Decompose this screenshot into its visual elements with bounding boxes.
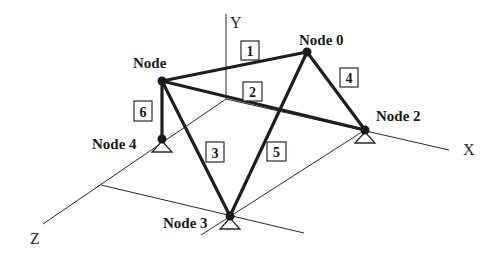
member-5-number: 5 — [273, 145, 280, 160]
truss-diagram: XYZ123456NodeNode 0Node 2Node 3Node 4 — [0, 0, 503, 255]
x-axis-label: X — [463, 141, 475, 158]
node-4-label: Node 4 — [92, 136, 137, 152]
node-top-left-label: Node — [133, 55, 167, 71]
member-4-number: 4 — [346, 71, 353, 86]
labels: XYZ123456NodeNode 0Node 2Node 3Node 4 — [30, 14, 475, 247]
z-axis-label: Z — [30, 230, 40, 247]
node-top-left-dot — [158, 77, 167, 86]
node-4-dot — [158, 135, 167, 144]
node-0-dot — [303, 48, 312, 57]
member-1-line — [162, 52, 307, 81]
member-6-number: 6 — [140, 105, 147, 120]
node-2-dot — [361, 126, 370, 135]
node-2-label: Node 2 — [376, 108, 421, 124]
truss-members — [162, 52, 365, 216]
y-axis-label: Y — [230, 14, 242, 31]
member-2-number: 2 — [249, 85, 256, 100]
member-1-number: 1 — [247, 44, 254, 59]
node-0-label: Node 0 — [299, 32, 344, 48]
node-3-dot — [226, 212, 235, 221]
member-3-number: 3 — [212, 146, 219, 161]
node-3-label: Node 3 — [163, 215, 208, 231]
